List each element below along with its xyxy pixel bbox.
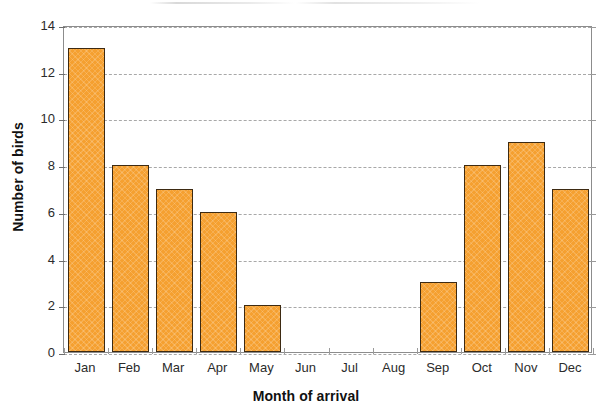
y-axis-tick-mark (59, 354, 65, 355)
y-axis-tick-label: 6 (15, 206, 55, 219)
x-axis-tick-mark (549, 348, 550, 354)
y-axis-tick-mark (59, 214, 65, 215)
y-axis-tick-label: 12 (15, 66, 55, 79)
y-axis-tick-label: 14 (15, 19, 55, 32)
bar (464, 165, 501, 352)
y-axis-tick-mark (59, 307, 65, 308)
x-axis-tick-label: May (239, 361, 283, 374)
x-axis-tick-mark (152, 348, 153, 354)
cropped-caption-artifact (150, 2, 480, 4)
bar (420, 282, 457, 352)
bar (200, 212, 237, 352)
bar (508, 142, 545, 352)
plot-area (63, 26, 592, 353)
y-axis-tick-label: 4 (15, 253, 55, 266)
y-axis-tick-mark-right (590, 214, 596, 215)
gridline (64, 27, 591, 28)
bar (112, 165, 149, 352)
x-axis-tick-mark (417, 348, 418, 354)
x-axis-tick-label: Dec (548, 361, 592, 374)
gridline (64, 74, 591, 75)
bar-chart-figure: Number of birds 02468101214 JanFebMarApr… (0, 0, 612, 418)
y-axis-tick-mark-right (590, 74, 596, 75)
y-axis-tick-mark-right (590, 354, 596, 355)
bar (244, 305, 281, 352)
x-axis-tick-label: Mar (151, 361, 195, 374)
y-axis-tick-mark (59, 74, 65, 75)
x-axis-tick-label: Sep (416, 361, 460, 374)
x-axis-tick-mark (240, 348, 241, 354)
x-axis-tick-mark (64, 348, 65, 354)
y-axis-tick-mark-right (590, 120, 596, 121)
x-axis-tick-label: Feb (107, 361, 151, 374)
x-axis-tick-mark (373, 348, 374, 354)
x-axis-tick-label: Apr (195, 361, 239, 374)
y-axis-tick-mark-right (590, 167, 596, 168)
y-axis-tick-label: 2 (15, 299, 55, 312)
x-axis-tick-mark (461, 348, 462, 354)
x-axis-tick-mark (329, 348, 330, 354)
gridline (64, 354, 591, 355)
x-axis-tick-label: Nov (504, 361, 548, 374)
y-axis-tick-label: 8 (15, 159, 55, 172)
x-axis-tick-mark (593, 348, 594, 354)
y-axis-tick-mark (59, 261, 65, 262)
x-axis-tick-mark (505, 348, 506, 354)
bar (552, 189, 589, 353)
x-axis-tick-mark (196, 348, 197, 354)
x-axis-tick-label: Oct (460, 361, 504, 374)
y-axis-tick-label: 0 (15, 346, 55, 359)
y-axis-tick-mark-right (590, 261, 596, 262)
x-axis-title: Month of arrival (0, 388, 612, 404)
x-axis-tick-label: Jul (328, 361, 372, 374)
y-axis-tick-mark (59, 120, 65, 121)
y-axis-tick-mark (59, 167, 65, 168)
x-axis-tick-label: Jan (63, 361, 107, 374)
bar (68, 48, 105, 352)
bar (156, 189, 193, 353)
gridline (64, 120, 591, 121)
y-axis-tick-mark-right (590, 27, 596, 28)
y-axis-tick-mark (59, 27, 65, 28)
x-axis-tick-mark (284, 348, 285, 354)
x-axis-tick-label: Jun (283, 361, 327, 374)
x-axis-tick-mark (108, 348, 109, 354)
y-axis-tick-mark-right (590, 307, 596, 308)
y-axis-tick-label: 10 (15, 112, 55, 125)
x-axis-tick-label: Aug (372, 361, 416, 374)
